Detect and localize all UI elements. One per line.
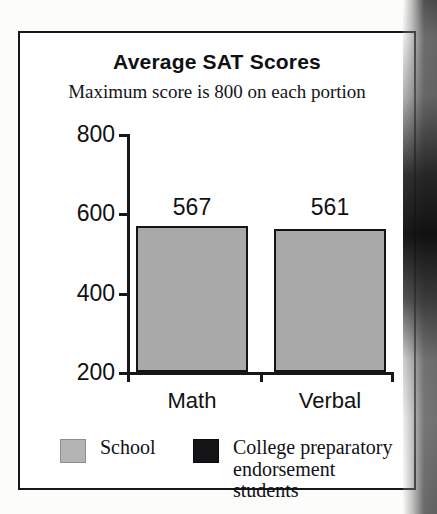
chart-title: Average SAT Scores	[20, 50, 414, 74]
y-tick-mark	[119, 134, 127, 137]
legend-swatch-gray-icon	[60, 439, 86, 463]
y-tick-label: 800	[77, 121, 115, 148]
chart-legend: School College preparatory endorsement s…	[60, 431, 398, 493]
y-tick-label: 600	[77, 200, 115, 227]
bar-math	[136, 226, 248, 372]
legend-label-school: School	[100, 437, 156, 459]
legend-swatch-black-icon	[193, 439, 219, 463]
y-tick-mark	[119, 213, 127, 216]
y-tick-label: 200	[77, 359, 115, 386]
legend-label-college: College preparatory endorsement students	[233, 437, 398, 502]
chart-frame: Average SAT Scores Maximum score is 800 …	[18, 31, 416, 490]
bar-value-verbal: 561	[311, 194, 349, 221]
bar-value-math: 567	[173, 194, 211, 221]
chart-subtitle: Maximum score is 800 on each portion	[20, 81, 414, 103]
x-category-label-math: Math	[168, 388, 217, 414]
y-tick-mark	[119, 372, 127, 375]
x-category-label-verbal: Verbal	[299, 388, 361, 414]
x-tick-left	[127, 372, 130, 382]
y-tick-label: 400	[77, 280, 115, 307]
bar-verbal	[274, 229, 386, 372]
y-axis-line	[127, 134, 130, 372]
x-tick-right	[391, 372, 394, 382]
legend-entry-college: College preparatory endorsement students	[193, 437, 398, 502]
plot-area: 800 600 400 200 567 561 Math Verbal	[127, 134, 394, 372]
legend-entry-school: School	[60, 437, 156, 463]
y-tick-mark	[119, 293, 127, 296]
x-tick-middle	[260, 372, 263, 382]
